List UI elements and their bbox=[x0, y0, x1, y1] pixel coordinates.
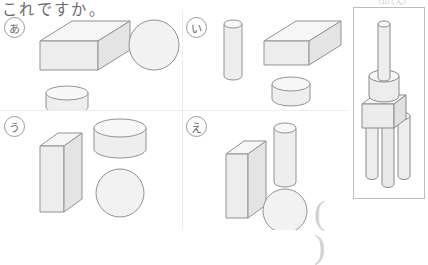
wide-cylinder-icon bbox=[94, 119, 146, 158]
sphere-icon bbox=[129, 20, 179, 70]
choice-label-u[interactable]: う bbox=[4, 116, 25, 137]
choice-a-shapes bbox=[30, 14, 180, 110]
sphere-icon bbox=[96, 169, 144, 217]
choice-i-shapes bbox=[212, 14, 352, 110]
answer-blank[interactable]: ( ) bbox=[314, 196, 428, 264]
sphere-icon bbox=[263, 189, 307, 230]
flat-rectangular-prism-icon bbox=[264, 21, 341, 65]
tall-thin-cylinder-icon bbox=[224, 20, 242, 80]
short-cylinder-icon bbox=[46, 86, 88, 110]
thin-rod-icon bbox=[378, 21, 390, 81]
short-cylinder-icon bbox=[272, 77, 310, 106]
tall-cylinder-icon bbox=[274, 123, 296, 187]
panel-divider-horizontal bbox=[0, 110, 348, 111]
points-note: （10てん） bbox=[374, 0, 410, 6]
choice-u-shapes bbox=[28, 114, 180, 226]
figure-box bbox=[353, 7, 425, 199]
choice-label-i[interactable]: い bbox=[186, 17, 207, 38]
choice-label-e[interactable]: え bbox=[186, 116, 207, 137]
tall-rectangular-prism-icon bbox=[226, 141, 266, 218]
flat-rectangular-prism-icon bbox=[40, 21, 130, 70]
choice-label-a[interactable]: あ bbox=[4, 17, 25, 38]
tall-rectangular-prism-icon bbox=[40, 133, 82, 212]
assembled-solid-figure bbox=[354, 8, 422, 196]
panel-divider-vertical bbox=[182, 10, 183, 230]
